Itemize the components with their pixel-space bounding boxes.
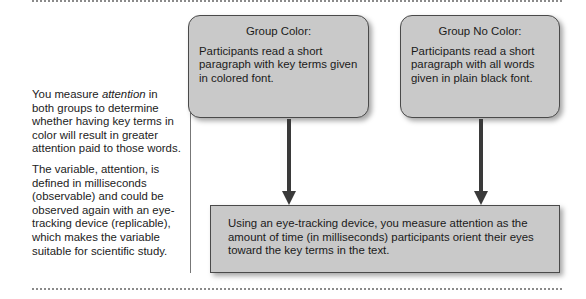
- arrow-shaft: [287, 119, 291, 193]
- top-dotted-rule: [32, 0, 562, 2]
- group-color-box: Group Color: Participants read a short p…: [188, 15, 369, 118]
- group-color-description: Participants read a short paragraph with…: [199, 45, 358, 86]
- group-no-color-description: Participants read a short paragraph with…: [411, 45, 549, 86]
- arrow-head: [282, 191, 296, 205]
- side-note-paragraph-1: You measure attention in both groups to …: [32, 88, 182, 156]
- measurement-box: Using an eye-tracking device, you measur…: [210, 205, 560, 273]
- side-note-paragraph-2: The variable, attention, is defined in m…: [32, 163, 182, 258]
- arrow-head: [474, 191, 488, 205]
- group-no-color-box: Group No Color: Participants read a shor…: [400, 15, 560, 118]
- side-note-text: You measure: [32, 88, 102, 100]
- group-no-color-title: Group No Color:: [411, 25, 549, 39]
- side-note: You measure attention in both groups to …: [32, 88, 182, 265]
- measurement-text: Using an eye-tracking device, you measur…: [228, 217, 547, 258]
- arrow-shaft: [479, 119, 483, 193]
- down-arrow-icon: [474, 119, 488, 205]
- side-note-emphasis: attention: [102, 88, 146, 100]
- vertical-divider: [190, 88, 191, 273]
- bottom-dotted-rule: [32, 288, 562, 290]
- down-arrow-icon: [282, 119, 296, 205]
- group-color-title: Group Color:: [199, 25, 358, 39]
